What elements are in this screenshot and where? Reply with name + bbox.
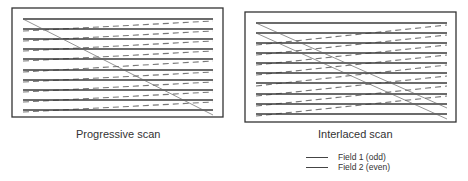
legend-item-field-1: Field 1 (odd) <box>306 152 390 162</box>
retrace-dashed-line <box>256 45 447 65</box>
diagram-canvas <box>0 0 468 181</box>
vertical-retrace-line <box>256 23 447 108</box>
retrace-dashed-line <box>256 55 447 75</box>
retrace-dashed-line <box>256 76 447 96</box>
legend-label-field-1: Field 1 (odd) <box>338 152 386 162</box>
legend-label-field-2: Field 2 (even) <box>338 162 390 172</box>
solid-line-swatch-icon <box>306 157 328 158</box>
retrace-dashed-line <box>256 86 447 106</box>
legend: Field 1 (odd) Field 2 (even) <box>306 152 390 172</box>
solid-line-swatch-icon <box>306 167 328 168</box>
progressive-scan-caption: Progressive scan <box>76 128 160 140</box>
interlaced-scan-caption: Interlaced scan <box>318 128 393 140</box>
legend-item-field-2: Field 2 (even) <box>306 162 390 172</box>
scan-diagram <box>0 0 468 181</box>
interlaced-frame <box>245 12 456 122</box>
retrace-dashed-line <box>256 35 447 55</box>
vertical-retrace-line <box>256 33 447 119</box>
retrace-dashed-line <box>256 25 447 45</box>
